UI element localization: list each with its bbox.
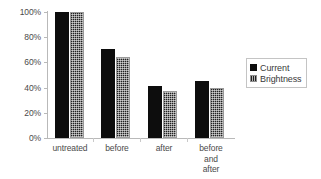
x-category-before: before (105, 143, 129, 154)
bar-brightness-untreated (70, 12, 84, 138)
bar-brightness-before (116, 57, 130, 138)
x-category-after: after (156, 143, 173, 154)
y-axis-labels: 100% 80% 60% 40% 20% 0% (0, 0, 44, 145)
legend: Current Brightness (246, 58, 307, 88)
bar-current-after (148, 86, 162, 138)
y-tick-label-80: 80% (24, 33, 41, 42)
x-category-before-and-after: before and after (199, 143, 223, 175)
bar-current-untreated (55, 12, 69, 138)
x-tick-3 (187, 138, 188, 142)
y-tick-label-100: 100% (20, 8, 41, 17)
y-tick-label-20: 20% (24, 109, 41, 118)
bar-chart: 100% 80% 60% 40% 20% 0% (0, 0, 321, 179)
legend-swatch-current-icon (250, 64, 257, 71)
bar-group-before-and-after (187, 12, 234, 138)
bar-current-before-and-after (195, 81, 209, 138)
x-category-untreated: untreated (52, 143, 87, 154)
x-tick-1 (93, 138, 94, 142)
y-tick-0 (44, 138, 48, 139)
legend-label-brightness: Brightness (260, 74, 302, 84)
bar-group-before (93, 12, 140, 138)
bar-group-after (140, 12, 187, 138)
legend-item-current: Current (250, 62, 302, 73)
y-tick-label-60: 60% (24, 58, 41, 67)
legend-label-current: Current (260, 63, 289, 73)
bar-brightness-after (163, 91, 177, 138)
y-tick-label-0: 0% (29, 134, 41, 143)
bar-brightness-before-and-after (210, 88, 224, 138)
x-axis-labels: untreated before after before and after (48, 143, 234, 179)
x-tick-2 (140, 138, 141, 142)
bar-group-untreated (48, 12, 93, 138)
legend-item-brightness: Brightness (250, 73, 302, 84)
plot-area (48, 12, 234, 138)
x-axis-line (47, 138, 235, 139)
bar-current-before (101, 49, 115, 138)
legend-swatch-brightness-icon (250, 75, 257, 82)
y-tick-label-40: 40% (24, 84, 41, 93)
